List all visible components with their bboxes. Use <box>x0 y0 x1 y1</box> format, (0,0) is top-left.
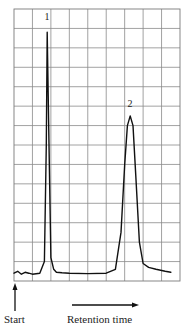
chart-grid <box>14 9 180 281</box>
x-axis-label: Retention time <box>67 313 132 325</box>
chromatogram-trace <box>14 32 171 274</box>
peak-1-label: 1 <box>45 11 50 22</box>
start-arrow-icon <box>13 283 18 311</box>
peak-2-label: 2 <box>128 98 133 109</box>
chromatogram-chart: 1 2 Start Retention time <box>0 0 186 331</box>
retention-time-arrow-icon <box>72 303 139 308</box>
start-label: Start <box>4 313 25 325</box>
